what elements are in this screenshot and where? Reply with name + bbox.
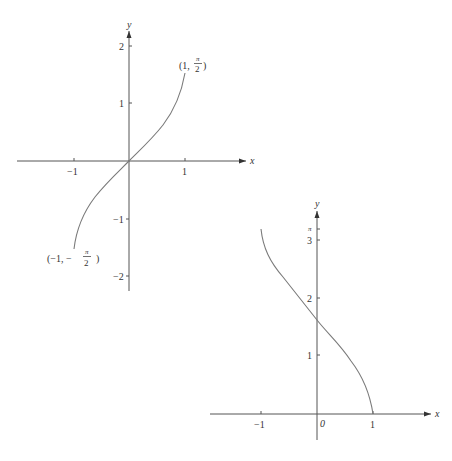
svg-text:π: π <box>196 55 200 63</box>
arcsin-chart: x y −1 1 2 1 −1 −2 (1, π 2 ) (−1, − π <box>17 19 255 291</box>
y-tick-label-2: 2 <box>119 41 124 52</box>
y-tick-label-pi: π <box>308 225 312 233</box>
x-tick-label-1: 1 <box>370 419 375 430</box>
annotation-point-neg1-neg-pi-2: (−1, − π 2 ) <box>47 248 99 268</box>
y-tick-label-neg2: −2 <box>113 271 124 282</box>
y-axis-label: y <box>314 198 320 209</box>
svg-text:π: π <box>85 248 89 256</box>
y-axis-label: y <box>126 19 132 30</box>
x-tick-label-1: 1 <box>182 166 187 177</box>
svg-text:2: 2 <box>84 258 89 268</box>
x-axis-label: x <box>434 408 440 419</box>
x-tick-label-neg1: −1 <box>67 166 78 177</box>
figure-canvas: x y −1 1 2 1 −1 −2 (1, π 2 ) (−1, − π <box>0 0 452 461</box>
svg-text:(−1, −: (−1, − <box>47 253 72 265</box>
y-tick-label-neg1: −1 <box>113 214 124 225</box>
svg-text:2: 2 <box>195 64 200 74</box>
annotation-point-1-pi-2: (1, π 2 ) <box>179 55 206 74</box>
svg-text:(1,: (1, <box>179 60 190 72</box>
x-axis-label: x <box>249 155 255 166</box>
y-tick-label-3: 3 <box>307 235 312 246</box>
x-tick-label-0: 0 <box>320 418 325 429</box>
svg-text:): ) <box>96 253 99 265</box>
svg-text:): ) <box>203 60 206 72</box>
y-tick-label-1: 1 <box>307 350 312 361</box>
x-tick-label-neg1: −1 <box>254 419 265 430</box>
y-tick-label-1: 1 <box>119 98 124 109</box>
y-tick-label-2: 2 <box>307 293 312 304</box>
arccos-chart: x y −1 0 1 π 3 2 1 <box>210 198 440 440</box>
